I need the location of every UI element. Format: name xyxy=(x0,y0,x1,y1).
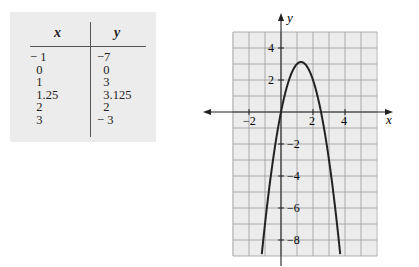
y-tick-label: −2 xyxy=(287,137,300,151)
x-tick-label: 4 xyxy=(341,114,347,128)
y-tick-label: −4 xyxy=(287,169,300,183)
y-tick-label: −8 xyxy=(287,233,300,247)
parabola-graph: x y −2 2 4 4 2 −2 −4 −6 −8 xyxy=(0,0,419,267)
y-tick-label: 4 xyxy=(268,41,274,55)
x-tick-label: 2 xyxy=(309,114,315,128)
y-tick-label: 2 xyxy=(268,73,274,87)
x-axis-label: x xyxy=(385,112,392,127)
x-tick-label: −2 xyxy=(243,114,256,128)
y-tick-label: −6 xyxy=(287,201,300,215)
y-axis-label: y xyxy=(285,10,293,25)
y-axis-up-arrow-icon xyxy=(278,13,284,21)
x-axis-left-arrow-icon xyxy=(203,109,211,115)
